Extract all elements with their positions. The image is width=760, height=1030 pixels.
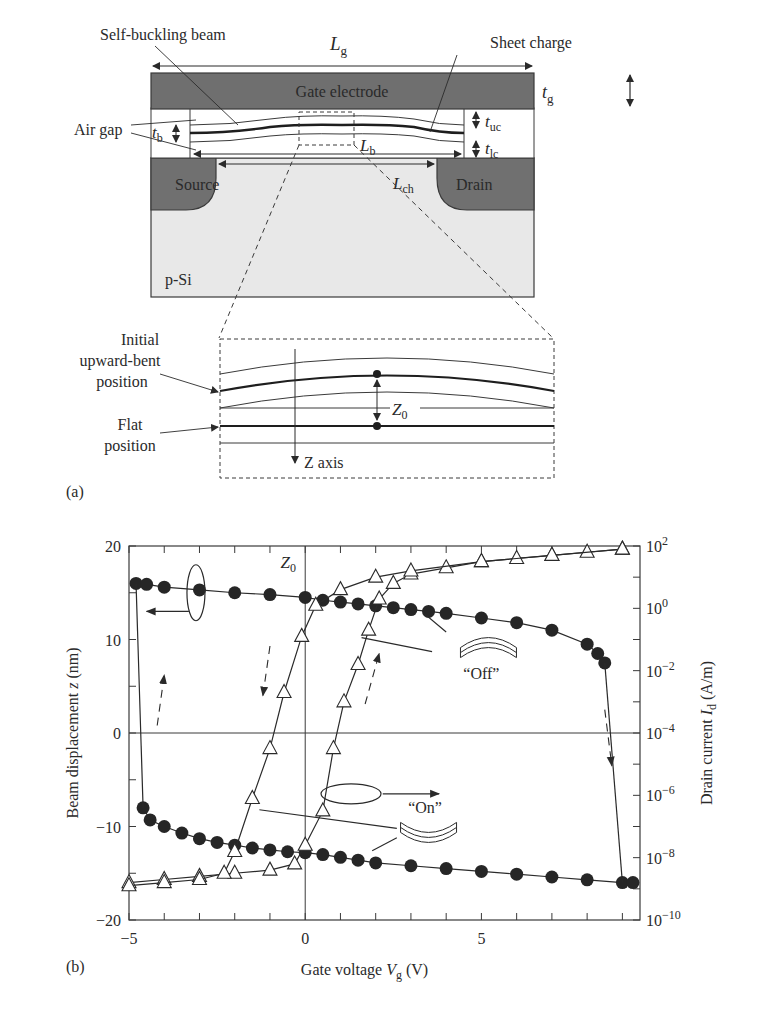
data-point <box>246 842 259 855</box>
data-point <box>545 870 558 883</box>
y-tick-label: −20 <box>96 912 121 929</box>
p-si-label: p-Si <box>165 271 192 289</box>
data-point <box>337 694 351 707</box>
data-point <box>386 575 400 588</box>
initial-label-2: upward-bent <box>80 352 161 370</box>
data-point <box>404 603 417 616</box>
data-point <box>362 622 376 635</box>
y2-tick-label: 10−4 <box>646 721 675 742</box>
self-buckling-beam-label: Self-buckling beam <box>100 26 226 44</box>
source-label: Source <box>175 176 219 193</box>
data-point <box>281 845 294 858</box>
data-point <box>263 588 276 601</box>
y2-tick-label: 100 <box>646 596 668 617</box>
data-point <box>298 837 312 850</box>
gate-electrode-label: Gate electrode <box>296 83 389 100</box>
data-point <box>510 550 524 563</box>
flat-label-1: Flat <box>118 416 143 433</box>
y-tick-label: 20 <box>105 538 121 555</box>
data-point <box>369 856 382 869</box>
right-axis-ellipse <box>321 784 381 804</box>
panel-b-label: (b) <box>66 958 85 976</box>
data-point <box>474 554 488 567</box>
data-point <box>140 578 153 591</box>
data-point <box>211 836 224 849</box>
z-axis-label: Z axis <box>304 454 344 471</box>
data-point <box>334 851 347 864</box>
data-point <box>144 813 157 826</box>
figure-canvas: Gate electrode Lg tg tuc tlc tb Lb Lch S… <box>0 0 760 1030</box>
y2-tick-label: 10−6 <box>646 783 675 804</box>
y-tick-label: 0 <box>113 725 121 742</box>
y2-tick-label: 10−8 <box>646 846 675 867</box>
data-point <box>263 741 277 754</box>
data-point <box>316 803 330 816</box>
sweep-direction-arrow <box>157 675 164 725</box>
tg-label: tg <box>542 82 554 106</box>
data-point <box>581 873 594 886</box>
data-point <box>545 547 559 560</box>
data-point <box>263 843 276 856</box>
data-point <box>193 832 206 845</box>
data-point <box>475 611 488 624</box>
y-tick-label: 10 <box>105 632 121 649</box>
data-point <box>352 597 365 610</box>
sheet-charge-label: Sheet charge <box>490 34 572 52</box>
panel-a-inset-beam-positions: Z0 Z axis Initial upward-bent position F… <box>80 331 554 478</box>
y2-tick-label: 10−10 <box>646 908 681 929</box>
drain-label: Drain <box>456 176 492 193</box>
data-point <box>351 656 365 669</box>
data-point <box>158 820 171 833</box>
data-point <box>228 586 241 599</box>
data-point <box>158 581 171 594</box>
x-tick-label: 0 <box>301 930 309 947</box>
data-point <box>277 684 291 697</box>
upward-bent-beam-line <box>220 376 554 392</box>
y2-axis-title: Drain current Id (A/m) <box>698 661 719 805</box>
x-tick-label: 5 <box>477 930 485 947</box>
data-point <box>510 868 523 881</box>
data-point <box>326 741 340 754</box>
z0-chart-label: Z0 <box>281 553 296 575</box>
data-point <box>581 638 594 651</box>
data-point <box>387 601 400 614</box>
data-point <box>299 591 312 604</box>
y2-tick-label: 10−2 <box>646 659 675 680</box>
air-gap-label: Air gap <box>74 121 122 139</box>
data-point <box>626 876 639 889</box>
x-axis-title: Gate voltage Vg (V) <box>301 961 428 982</box>
data-point <box>295 628 309 641</box>
data-point <box>404 563 418 576</box>
sweep-direction-arrow <box>263 646 270 696</box>
data-point <box>404 859 417 872</box>
data-point <box>422 605 435 618</box>
data-point <box>440 862 453 875</box>
x-tick-label: −5 <box>120 930 137 947</box>
y-axis-title: Beam displacement z (nm) <box>64 647 82 818</box>
sweep-direction-arrow <box>365 654 379 704</box>
data-point <box>475 865 488 878</box>
on-beam-icon <box>401 822 457 842</box>
data-point <box>440 607 453 620</box>
data-point <box>615 541 629 554</box>
data-point <box>510 616 523 629</box>
data-point <box>352 854 365 867</box>
initial-label-3: position <box>96 373 148 391</box>
panel-a-device-cross-section: Gate electrode Lg tg tuc tlc tb Lb Lch S… <box>74 26 630 338</box>
panel-b-chart: −505−20−100102010−1010−810−610−410−21001… <box>64 534 719 982</box>
lg-label: Lg <box>329 33 348 58</box>
data-point <box>334 596 347 609</box>
data-point <box>245 790 259 803</box>
data-point <box>175 827 188 840</box>
panel-a-label: (a) <box>66 483 84 501</box>
data-point <box>316 848 329 861</box>
data-point <box>193 583 206 596</box>
on-label: “On” <box>408 799 442 816</box>
data-point <box>217 865 231 878</box>
initial-label-1: Initial <box>121 331 160 348</box>
y2-tick-label: 102 <box>646 534 668 555</box>
data-point <box>369 569 383 582</box>
flat-label-2: position <box>104 437 156 455</box>
y-tick-label: −10 <box>96 819 121 836</box>
off-label: “Off” <box>463 665 499 682</box>
